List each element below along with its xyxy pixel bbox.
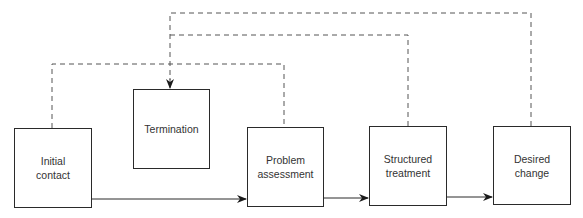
node-desired-change: Desired change (493, 126, 571, 205)
node-termination: Termination (133, 89, 210, 169)
node-label: Problem (257, 153, 313, 167)
node-problem-assessment: Problem assessment (247, 127, 324, 207)
node-structured-treatment: Structured treatment (369, 126, 447, 206)
node-label: treatment (384, 166, 432, 180)
node-label: assessment (257, 167, 313, 181)
node-label: Termination (144, 122, 198, 136)
dashed-line-desired-change (170, 13, 531, 126)
node-label: Desired (514, 152, 550, 166)
node-label: Structured (384, 152, 432, 166)
node-initial-contact: Initial contact (14, 128, 92, 208)
node-label: change (514, 166, 550, 180)
dashed-feedback-lines (52, 13, 531, 128)
node-label: Initial (36, 154, 70, 168)
node-label: contact (36, 168, 70, 182)
